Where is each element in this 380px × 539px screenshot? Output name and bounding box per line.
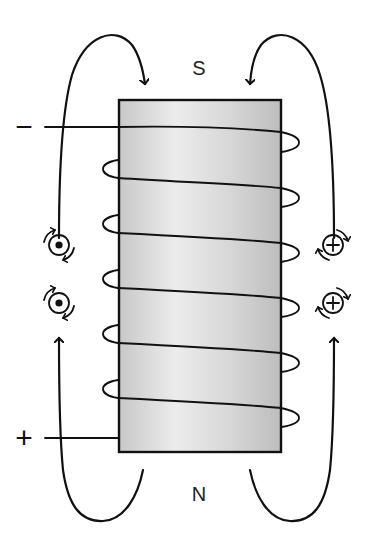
current-out-symbol-lower — [44, 288, 74, 318]
electromagnet-diagram: S N − + — [0, 0, 380, 539]
cross-icon — [327, 239, 339, 251]
rotation-arrow-icon — [318, 249, 329, 260]
dot-icon — [55, 241, 62, 248]
current-in-symbol-upper — [318, 230, 348, 260]
dot-icon — [55, 299, 62, 306]
pole-label-north: N — [192, 483, 206, 505]
terminal-negative: − — [15, 110, 33, 143]
terminal-positive: + — [15, 421, 33, 454]
rotation-arrow-icon — [337, 230, 348, 241]
cross-icon — [327, 297, 339, 309]
current-out-symbol-upper — [44, 230, 74, 260]
coil-back-loops — [103, 160, 118, 398]
rotation-arrow-icon — [318, 307, 329, 318]
current-in-symbol-lower — [318, 288, 348, 318]
pole-label-south: S — [192, 57, 205, 79]
rotation-arrow-icon — [337, 288, 348, 299]
